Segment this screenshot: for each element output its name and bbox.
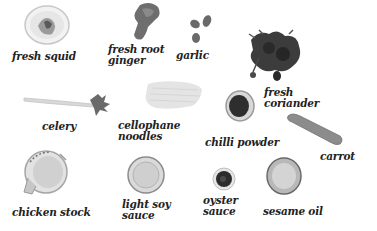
chicken-stock-jug-image <box>22 148 70 198</box>
carrot-image <box>286 112 346 148</box>
ginger-label-line2: ginger <box>108 55 164 66</box>
light-soy-sauce-bowl-image <box>126 155 166 195</box>
coriander-label-line2: coriander <box>264 98 319 109</box>
cellophane-noodles-label-line2: noodles <box>118 131 180 142</box>
cellophane-noodles-image <box>142 80 204 110</box>
ginger-label: fresh root ginger <box>108 44 164 66</box>
chicken-stock-label-line1: chicken stock <box>12 207 91 218</box>
sesame-oil-label-line1: sesame oil <box>263 206 323 217</box>
carrot-label-line1: carrot <box>320 151 355 162</box>
coriander-image <box>245 28 305 82</box>
light-soy-sauce-label: light soy sauce <box>122 199 171 221</box>
celery-label-line1: celery <box>42 121 76 132</box>
sesame-oil-bowl-image <box>266 157 302 195</box>
squid-bowl-image <box>22 4 72 46</box>
ingredients-illustration: fresh squid fresh root ginger garlic <box>0 0 377 231</box>
chicken-stock-label: chicken stock <box>12 207 91 218</box>
chilli-powder-label-line1: chilli powder <box>205 137 279 148</box>
celery-label: celery <box>42 121 76 132</box>
oyster-sauce-bowl-image <box>212 167 236 191</box>
oyster-sauce-label-line2: sauce <box>203 206 238 217</box>
light-soy-sauce-label-line2: sauce <box>122 210 171 221</box>
cellophane-noodles-label: cellophane noodles <box>118 120 180 142</box>
garlic-label-line1: garlic <box>176 50 209 61</box>
sesame-oil-label: sesame oil <box>263 206 323 217</box>
garlic-image <box>188 14 216 46</box>
garlic-label: garlic <box>176 50 209 61</box>
squid-label-line1: fresh squid <box>12 51 76 62</box>
coriander-label: fresh coriander <box>264 87 319 109</box>
oyster-sauce-label: oyster sauce <box>203 195 238 217</box>
carrot-label: carrot <box>320 151 355 162</box>
chilli-powder-label: chilli powder <box>205 137 279 148</box>
ginger-image <box>128 1 164 43</box>
celery-image <box>22 92 114 118</box>
chilli-powder-bowl-image <box>225 90 255 122</box>
squid-label: fresh squid <box>12 51 76 62</box>
